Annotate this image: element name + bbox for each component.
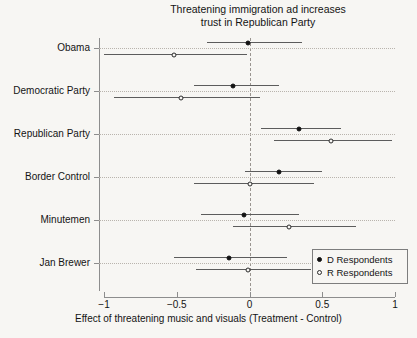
open-circle-icon — [317, 270, 322, 275]
y-tick-mark — [94, 263, 99, 264]
gridline — [99, 220, 395, 221]
gridline — [99, 48, 395, 49]
x-tick-mark — [395, 292, 396, 297]
y-tick-mark — [94, 134, 99, 135]
y-tick-mark — [94, 220, 99, 221]
data-point — [247, 181, 252, 186]
x-axis-line — [104, 297, 395, 298]
x-tick-label: 1 — [392, 299, 398, 310]
data-point — [231, 83, 236, 88]
y-axis-label-republican-party: Republican Party — [14, 128, 90, 139]
y-axis-line — [99, 38, 100, 291]
y-tick-mark — [94, 91, 99, 92]
forest-plot-chart: Threatening immigration ad increases tru… — [0, 0, 417, 338]
confidence-interval-bar — [196, 269, 311, 270]
data-point — [286, 224, 291, 229]
y-tick-mark — [94, 177, 99, 178]
x-tick-label: −0.5 — [167, 299, 187, 310]
confidence-interval-bar — [114, 97, 260, 98]
data-point — [246, 40, 251, 45]
gridline — [99, 134, 395, 135]
legend-label: D Respondents — [327, 254, 392, 265]
x-tick-mark — [177, 292, 178, 297]
data-point — [246, 267, 251, 272]
x-axis-title: Effect of threatening music and visuals … — [0, 313, 417, 324]
filled-circle-icon — [317, 257, 322, 262]
legend-label: R Respondents — [327, 267, 392, 278]
confidence-interval-bar — [233, 226, 355, 227]
legend-item-r-respondents: R Respondents — [317, 266, 403, 279]
legend: D Respondents R Respondents — [312, 249, 408, 284]
data-point — [171, 52, 176, 57]
legend-item-d-respondents: D Respondents — [317, 253, 403, 266]
y-axis-label-democratic-party: Democratic Party — [13, 85, 90, 96]
x-tick-mark — [104, 292, 105, 297]
x-tick-label: 0.5 — [315, 299, 329, 310]
zero-reference-line — [250, 38, 251, 291]
gridline — [99, 177, 395, 178]
y-axis-label-obama: Obama — [57, 42, 90, 53]
x-tick-mark — [250, 292, 251, 297]
confidence-interval-bar — [201, 214, 298, 215]
confidence-interval-bar — [207, 42, 302, 43]
data-point — [296, 126, 301, 131]
confidence-interval-bar — [194, 85, 278, 86]
y-tick-mark — [94, 48, 99, 49]
gridline — [99, 91, 395, 92]
y-axis-label-minutemen: Minutemen — [41, 214, 90, 225]
data-point — [328, 138, 333, 143]
chart-title: Threatening immigration ad increases tru… — [108, 3, 408, 28]
data-point — [179, 95, 184, 100]
confidence-interval-bar — [194, 183, 313, 184]
confidence-interval-bar — [245, 171, 322, 172]
x-tick-label: −1 — [98, 299, 109, 310]
y-axis-label-border-control: Border Control — [25, 171, 90, 182]
data-point — [241, 212, 246, 217]
data-point — [276, 169, 281, 174]
x-tick-label: 0 — [247, 299, 253, 310]
x-tick-mark — [322, 292, 323, 297]
data-point — [227, 255, 232, 260]
y-axis-label-jan-brewer: Jan Brewer — [39, 257, 90, 268]
